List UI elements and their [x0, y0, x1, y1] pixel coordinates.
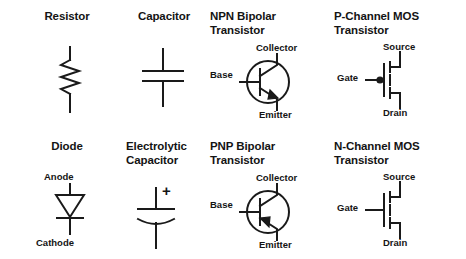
diode-symbol — [48, 184, 92, 236]
pin-label-pmos-gate: Gate — [337, 73, 358, 84]
pin-label-nmos-source: Source — [383, 172, 415, 183]
pin-label-npn-base: Base — [210, 70, 233, 81]
n-channel-mosfet-symbol — [366, 182, 418, 238]
cell-title-diode: Diode — [12, 140, 122, 154]
pin-label-pnp-base: Base — [210, 200, 233, 211]
pin-label-pnp-emitter: Emitter — [259, 240, 292, 251]
symbol-cell-npn-bipolar-transistor: NPN Bipolar Transistor — [210, 10, 316, 37]
resistor-symbol — [52, 46, 88, 114]
pin-label-pmos-drain: Drain — [383, 108, 407, 119]
capacitor-symbol — [138, 48, 188, 112]
cell-title-npn-bipolar-transistor: NPN Bipolar Transistor — [210, 10, 316, 37]
symbol-cell-diode: Diode — [12, 140, 122, 154]
p-channel-mosfet-symbol — [366, 52, 418, 108]
pin-label-nmos-gate: Gate — [337, 203, 358, 214]
npn-bipolar-transistor-symbol — [240, 54, 296, 110]
electrolytic-capacitor-symbol — [131, 188, 181, 250]
pin-label-diode-cathode: Cathode — [36, 238, 74, 249]
cell-title-capacitor: Capacitor — [104, 10, 224, 24]
pin-label-pmos-source: Source — [383, 42, 415, 53]
schematic-symbol-reference-sheet: Resistor Capacitor NPN Bipolar Transisto… — [0, 0, 466, 259]
pin-label-diode-anode: Anode — [44, 172, 74, 183]
symbol-cell-p-channel-mos-transistor: P-Channel MOS Transistor — [334, 10, 460, 37]
symbol-cell-pnp-bipolar-transistor: PNP Bipolar Transistor — [210, 140, 316, 167]
pnp-bipolar-transistor-symbol — [240, 184, 296, 240]
pin-label-npn-collector: Collector — [256, 43, 297, 54]
pin-label-pnp-collector: Collector — [256, 173, 297, 184]
pin-label-npn-emitter: Emitter — [259, 110, 292, 121]
cell-title-pnp-bipolar-transistor: PNP Bipolar Transistor — [210, 140, 316, 167]
cell-title-p-channel-mos-transistor: P-Channel MOS Transistor — [334, 10, 460, 37]
symbol-cell-n-channel-mos-transistor: N-Channel MOS Transistor — [334, 140, 460, 167]
pin-label-nmos-drain: Drain — [383, 238, 407, 249]
cell-title-n-channel-mos-transistor: N-Channel MOS Transistor — [334, 140, 460, 167]
symbol-cell-capacitor: Capacitor — [104, 10, 224, 24]
